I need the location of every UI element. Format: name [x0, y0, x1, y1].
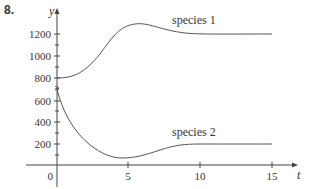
y-axis-label: y: [48, 4, 55, 18]
population-chart: 1200 1000 800 600 400 200 0 5 10 15 y t …: [0, 0, 309, 189]
species-1-curve: [57, 24, 272, 78]
y-tick-label: 800: [35, 72, 52, 84]
species-2-label: species 2: [172, 125, 216, 139]
x-tick-label: 10: [195, 170, 207, 182]
x-axis-label: t: [297, 168, 301, 182]
x-axis-arrow-icon: [292, 163, 298, 168]
y-tick-label: 400: [35, 116, 52, 128]
species-1-label: species 1: [172, 13, 216, 27]
y-axis-arrow-icon: [55, 8, 60, 14]
species-2-curve: [57, 89, 272, 158]
y-tick-label: 1200: [29, 28, 52, 40]
y-tick-label: 1000: [29, 50, 52, 62]
y-tick-label: 200: [35, 138, 52, 150]
x-tick-label: 5: [125, 170, 131, 182]
y-tick-label: 600: [35, 95, 52, 107]
x-tick-label: 15: [267, 170, 279, 182]
origin-label: 0: [48, 170, 54, 182]
